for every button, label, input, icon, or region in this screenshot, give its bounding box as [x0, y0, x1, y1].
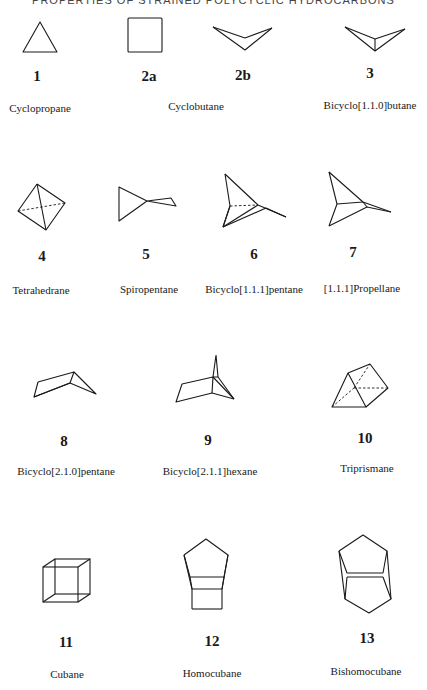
- compound-name: Bicyclo[2.1.0]pentane: [0, 465, 136, 477]
- compound-number: 9: [178, 432, 238, 449]
- compound-number: 2a: [119, 68, 179, 85]
- compound-number: 8: [34, 433, 94, 450]
- compound-number: 12: [182, 633, 242, 650]
- cyclobutane-square-structure: [126, 16, 166, 56]
- homocubane-structure: [180, 535, 240, 615]
- cubane-structure: [40, 556, 95, 606]
- page-header: PROPERTIES OF STRAINED POLYCYCLIC HYDROC…: [0, 0, 427, 6]
- tetrahedrane-structure: [14, 180, 69, 235]
- compound-name: [1.1.1]Propellane: [292, 282, 427, 294]
- compound-number: 4: [12, 248, 72, 265]
- compound-number: 2b: [213, 67, 273, 84]
- bicyclohexane-structure: [172, 352, 247, 407]
- cyclobutane-puckered-structure: [210, 24, 275, 54]
- compound-name: Cyclobutane: [126, 100, 266, 112]
- compound-number: 1: [7, 68, 67, 85]
- compound-name: Triprismane: [297, 462, 427, 474]
- bicyclopentane-210-structure: [32, 375, 102, 405]
- compound-number: 10: [335, 430, 395, 447]
- propellane-structure: [325, 170, 395, 230]
- compound-name: Cubane: [0, 668, 137, 680]
- compound-number: 11: [36, 634, 96, 651]
- bishomocubane-structure: [333, 531, 398, 616]
- cyclopropane-structure: [20, 20, 60, 55]
- bicyclobutane-structure: [342, 24, 407, 54]
- compound-name: Homocubane: [142, 667, 282, 679]
- triprismane-structure: [328, 366, 393, 411]
- compound-number: 3: [340, 65, 400, 82]
- compound-name: Bicyclo[1.1.0]butane: [300, 99, 427, 111]
- compound-name: Bicyclo[2.1.1]hexane: [140, 465, 280, 477]
- compound-number: 5: [116, 246, 176, 263]
- compound-number: 6: [224, 246, 284, 263]
- bicyclopentane-structure: [220, 172, 290, 232]
- compound-name: Cyclopropane: [0, 102, 110, 114]
- compound-number: 7: [323, 244, 383, 261]
- spiropentane-structure: [115, 183, 180, 223]
- compound-number: 13: [337, 630, 397, 647]
- compound-name: Bishomocubane: [296, 665, 427, 677]
